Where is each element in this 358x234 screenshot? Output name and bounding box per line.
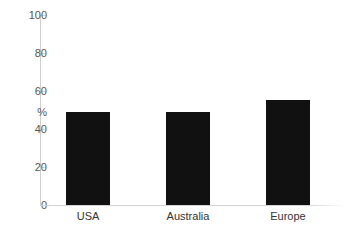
y-tick-label-60: 60	[7, 86, 47, 97]
bar-usa	[66, 112, 110, 205]
bar-europe	[266, 100, 310, 205]
x-axis-line	[40, 205, 345, 206]
y-axis-unit-label: %	[7, 107, 47, 118]
y-tick-label-100: 100	[7, 10, 47, 21]
x-label-usa: USA	[56, 210, 120, 223]
bar-australia	[166, 112, 210, 205]
bar-chart: 100 80 60 % 40 20 0 USA Australia Europe	[0, 0, 358, 234]
y-tick-label-20: 20	[7, 162, 47, 173]
y-tick-label-40: 40	[7, 124, 47, 135]
x-label-australia: Australia	[156, 210, 220, 223]
x-label-europe: Europe	[256, 210, 320, 223]
y-tick-label-80: 80	[7, 48, 47, 59]
